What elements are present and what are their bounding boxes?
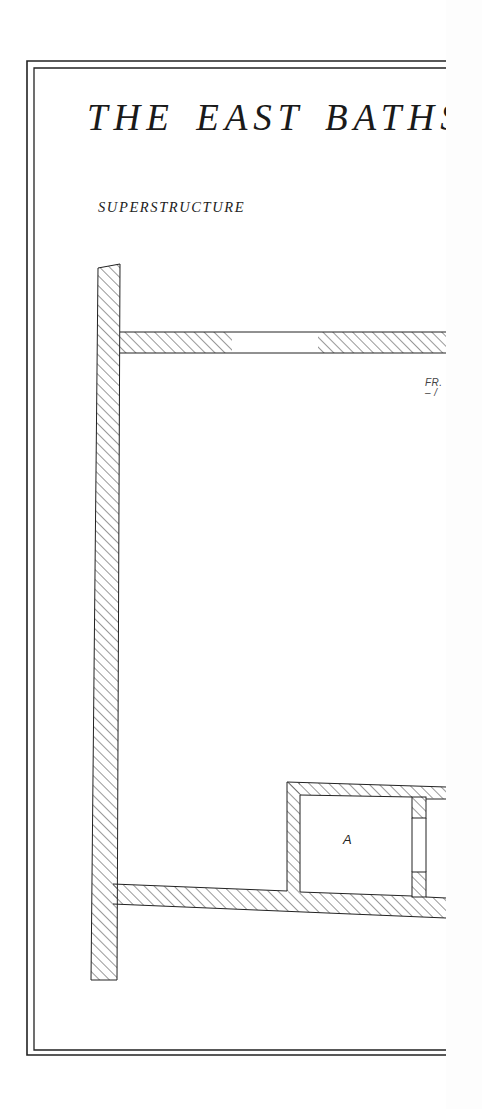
floor-plan-drawing [0, 0, 482, 1109]
plan-sheet: THE EAST BATHS SUPERSTRUCTURE FR. – / A [0, 0, 482, 1109]
plate-title: THE EAST BATHS [87, 96, 465, 139]
west-wall [91, 264, 120, 980]
page-crop-edge [446, 0, 482, 1109]
room-a-walls [287, 782, 446, 897]
south-wall [113, 884, 446, 918]
annotation-line-2: – / [425, 387, 438, 398]
plate-subtitle: SUPERSTRUCTURE [98, 199, 245, 216]
room-a-label: A [343, 832, 352, 847]
north-wall [120, 332, 446, 353]
